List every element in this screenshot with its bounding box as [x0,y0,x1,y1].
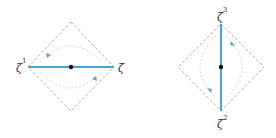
dashed-arc-top [40,46,102,62]
dashed-arc-bottom [40,72,102,88]
label-top-sup: 3 [223,6,227,14]
arrow-icon [230,41,235,46]
label-right: ζ [118,62,125,75]
diagram-vertical: ζ 3 ζ 2 [178,6,264,131]
label-bottom-sup: 2 [223,114,227,122]
center-dot [219,65,223,69]
diagram-horizontal: ζ 1 ζ [16,22,125,111]
diagram-canvas: ζ 1 ζ ζ 3 ζ 2 [0,0,276,138]
label-left-sup: 1 [22,57,26,65]
center-dot [69,65,73,69]
